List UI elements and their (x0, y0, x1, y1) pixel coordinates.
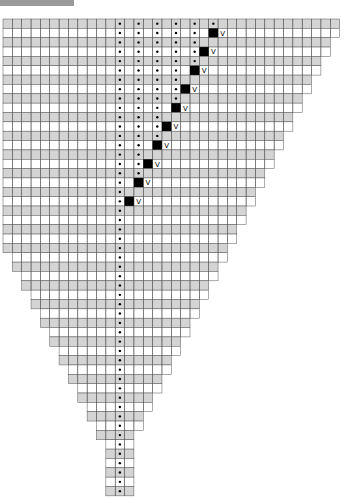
chart-row (3, 47, 330, 56)
purl-dot (175, 79, 177, 81)
purl-dot (193, 60, 195, 62)
purl-dot (175, 69, 177, 71)
increase-symbol: V (202, 67, 207, 75)
purl-dot (137, 97, 139, 99)
purl-dot (119, 163, 121, 165)
purl-dot (119, 378, 121, 380)
black-square (209, 28, 218, 37)
purl-dot (175, 22, 177, 24)
purl-dot (119, 331, 121, 333)
purl-dot (119, 481, 121, 483)
purl-dot (119, 368, 121, 370)
purl-dot (119, 453, 121, 455)
purl-dot (156, 88, 158, 90)
purl-dot (156, 22, 158, 24)
purl-dot (156, 41, 158, 43)
purl-dot (156, 60, 158, 62)
purl-dot (119, 340, 121, 342)
purl-dot (119, 322, 121, 324)
purl-dot (137, 116, 139, 118)
black-square (199, 47, 208, 56)
purl-dot (156, 32, 158, 34)
purl-dot (193, 51, 195, 53)
purl-dot (119, 396, 121, 398)
purl-dot (119, 312, 121, 314)
purl-dot (137, 22, 139, 24)
purl-dot (137, 172, 139, 174)
purl-dot (119, 238, 121, 240)
purl-dot (156, 79, 158, 81)
purl-dot (119, 51, 121, 53)
purl-dot (119, 97, 121, 99)
purl-dot (156, 125, 158, 127)
purl-dot (119, 462, 121, 464)
purl-dot (156, 116, 158, 118)
purl-dot (119, 88, 121, 90)
purl-dot (156, 135, 158, 137)
purl-dot (137, 163, 139, 165)
increase-symbol: V (155, 161, 160, 169)
purl-dot (119, 266, 121, 268)
purl-dot (119, 228, 121, 230)
purl-dot (193, 41, 195, 43)
increase-symbol: V (192, 86, 197, 94)
purl-dot (137, 79, 139, 81)
chart-row (3, 38, 330, 47)
purl-dot (193, 32, 195, 34)
increase-symbol: V (220, 30, 225, 38)
purl-dot (119, 490, 121, 492)
purl-dot (119, 256, 121, 258)
purl-dot (137, 51, 139, 53)
purl-dot (175, 97, 177, 99)
increase-symbol: V (164, 142, 169, 150)
increase-symbol: V (136, 198, 141, 206)
purl-dot (119, 209, 121, 211)
purl-dot (137, 153, 139, 155)
purl-dot (119, 153, 121, 155)
purl-dot (119, 387, 121, 389)
purl-dot (119, 60, 121, 62)
purl-dot (119, 443, 121, 445)
purl-dot (119, 32, 121, 34)
purl-dot (156, 69, 158, 71)
purl-dot (137, 32, 139, 34)
purl-dot (156, 107, 158, 109)
purl-dot (137, 144, 139, 146)
black-square (153, 141, 162, 150)
increase-symbol: V (146, 179, 151, 187)
purl-dot (119, 247, 121, 249)
purl-dot (137, 88, 139, 90)
black-square (171, 103, 180, 112)
purl-dot (119, 172, 121, 174)
purl-dot (119, 116, 121, 118)
purl-dot (119, 303, 121, 305)
increase-symbol: V (211, 48, 216, 56)
purl-dot (137, 41, 139, 43)
purl-dot (137, 69, 139, 71)
purl-dot (119, 144, 121, 146)
purl-dot (119, 434, 121, 436)
purl-dot (119, 181, 121, 183)
purl-dot (156, 51, 158, 53)
black-square (143, 159, 152, 168)
purl-dot (119, 294, 121, 296)
black-square (181, 84, 190, 93)
purl-dot (119, 359, 121, 361)
purl-dot (175, 51, 177, 53)
purl-dot (137, 135, 139, 137)
chart-row (3, 122, 293, 131)
purl-dot (119, 415, 121, 417)
purl-dot (119, 79, 121, 81)
purl-dot (119, 191, 121, 193)
purl-dot (212, 22, 214, 24)
purl-dot (175, 32, 177, 34)
purl-dot (175, 60, 177, 62)
purl-dot (119, 22, 121, 24)
purl-dot (137, 125, 139, 127)
purl-dot (156, 97, 158, 99)
purl-dot (193, 22, 195, 24)
purl-dot (119, 219, 121, 221)
increase-symbol: V (183, 105, 188, 113)
purl-dot (137, 107, 139, 109)
increase-symbol: V (174, 123, 179, 131)
